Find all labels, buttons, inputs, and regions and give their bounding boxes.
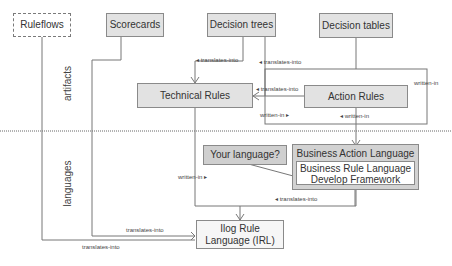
technical-rules-label: Technical Rules bbox=[160, 90, 230, 102]
edge-label-action-translates: ◂ translates-into bbox=[256, 86, 298, 93]
your-language-label: Your language? bbox=[210, 149, 280, 161]
irl-node: Ilog Rule Language (IRL) bbox=[196, 220, 284, 249]
brldf-node: Business Rule Language Develop Framework bbox=[296, 161, 415, 185]
action-rules-node: Action Rules bbox=[304, 85, 408, 108]
decision-trees-label: Decision trees bbox=[210, 19, 273, 31]
edge-label-ruleflows-translates: translates-into bbox=[82, 244, 120, 251]
business-action-language-label: Business Action Language bbox=[293, 148, 418, 159]
your-language-node: Your language? bbox=[203, 145, 287, 165]
edge-label-scorecards-translates: translates-into bbox=[126, 227, 164, 234]
edge-label-written-in-left: written-in ▸ bbox=[260, 112, 289, 119]
irl-label-line1: Ilog Rule bbox=[220, 223, 259, 235]
technical-rules-node: Technical Rules bbox=[137, 83, 253, 108]
edge-label-written-in-action: ◂ written-in bbox=[340, 113, 369, 120]
edge-label-written-in-right: written-in bbox=[414, 80, 438, 87]
brldf-label-line1: Business Rule Language bbox=[297, 163, 414, 174]
scorecards-node: Scorecards bbox=[106, 13, 164, 37]
irl-label-line2: Language (IRL) bbox=[205, 235, 275, 247]
decision-tables-label: Decision tables bbox=[322, 20, 390, 32]
decision-tables-node: Decision tables bbox=[319, 13, 393, 38]
action-rules-label: Action Rules bbox=[328, 91, 384, 103]
business-action-language-node: Business Action Language Business Rule L… bbox=[292, 144, 419, 190]
brldf-label-line2: Develop Framework bbox=[297, 174, 414, 185]
ruleflows-label: Ruleflows bbox=[20, 19, 63, 31]
decision-trees-node: Decision trees bbox=[207, 13, 276, 37]
edge-label-bal-translates: ◂ translates-into bbox=[275, 196, 317, 203]
languages-section-label: languages bbox=[62, 156, 73, 212]
artifacts-section-label: artifacts bbox=[62, 59, 73, 109]
ruleflows-node: Ruleflows bbox=[13, 13, 71, 37]
scorecards-label: Scorecards bbox=[110, 19, 161, 31]
edge-label-dtables-translates: ◂ translates-into bbox=[259, 59, 301, 66]
edge-label-dtrees-translates: ◂ translates-into bbox=[196, 57, 238, 64]
edge-label-written-in-tech: written-in ▸ bbox=[178, 174, 207, 181]
